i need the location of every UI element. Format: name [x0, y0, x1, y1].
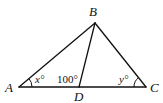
angle-label-x: x° — [34, 73, 45, 85]
vertex-label-d: D — [73, 89, 84, 103]
angle-label-y: y° — [118, 73, 129, 85]
angle-arc-c — [134, 78, 139, 87]
vertex-label-a: A — [4, 80, 13, 95]
vertex-label-b: B — [89, 4, 97, 19]
angle-label-100: 100° — [57, 73, 78, 85]
angle-arc-a — [29, 79, 32, 87]
segment-bd — [79, 23, 95, 87]
triangle-diagram: A B C D x° 100° y° — [0, 0, 163, 103]
vertex-label-c: C — [150, 80, 159, 95]
